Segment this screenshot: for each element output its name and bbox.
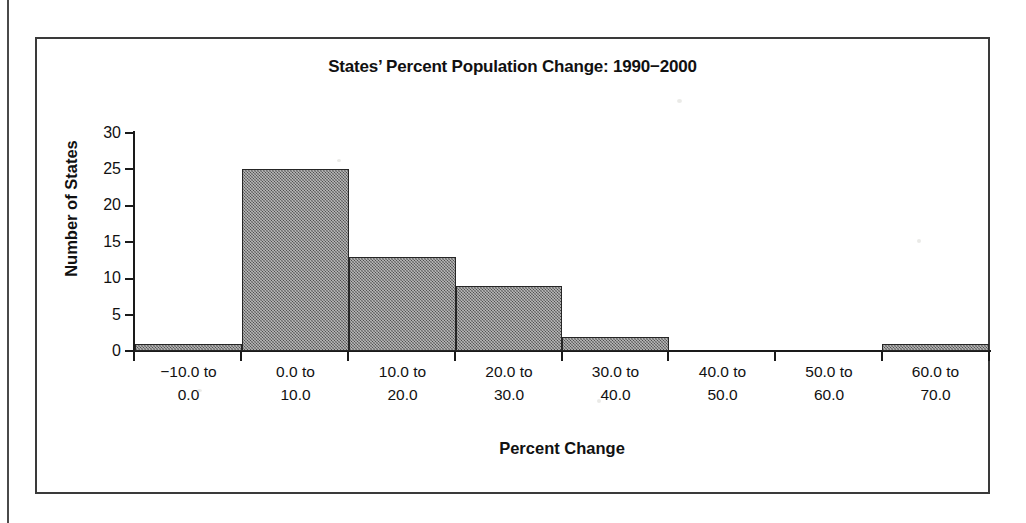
plot-area bbox=[135, 133, 989, 351]
x-axis-label-bin-1-line-2: 0.0 bbox=[135, 384, 242, 407]
chart-figure-frame: States’ Percent Population Change: 1990−… bbox=[35, 37, 990, 494]
x-axis-label-bin-6-line-1: 40.0 to bbox=[669, 361, 776, 384]
x-axis-label-bin-4: 20.0 to 30.0 bbox=[456, 361, 562, 407]
x-axis-label-bin-7: 50.0 to 60.0 bbox=[776, 361, 882, 407]
y-tick-label-20: 20 bbox=[87, 197, 121, 213]
scan-speckle bbox=[597, 399, 601, 403]
x-axis-label-bin-3-line-1: 10.0 to bbox=[349, 361, 456, 384]
bar-bin-1 bbox=[135, 344, 242, 351]
x-axis-label-bin-4-line-2: 30.0 bbox=[456, 384, 562, 407]
x-axis-label-bin-2: 0.0 to 10.0 bbox=[242, 361, 349, 407]
bar-bin-5 bbox=[562, 337, 669, 352]
y-tick-label-0: 0 bbox=[87, 343, 121, 359]
x-axis-tick-2 bbox=[347, 352, 349, 361]
x-axis-tick-5 bbox=[667, 352, 669, 361]
x-axis-label-bin-1-line-1: −10.0 to bbox=[135, 361, 242, 384]
scan-speckle bbox=[917, 239, 921, 243]
x-axis-label-bin-5-line-1: 30.0 to bbox=[562, 361, 669, 384]
x-axis-label-bin-6-line-2: 50.0 bbox=[669, 384, 776, 407]
scan-speckle bbox=[677, 99, 682, 103]
page-edge-rule bbox=[7, 0, 9, 523]
x-axis-label-bin-5: 30.0 to 40.0 bbox=[562, 361, 669, 407]
x-axis-label-bin-7-line-2: 60.0 bbox=[776, 384, 882, 407]
x-axis-label-bin-1: −10.0 to 0.0 bbox=[135, 361, 242, 407]
y-tick-label-30: 30 bbox=[87, 125, 121, 141]
x-axis-tick-6 bbox=[774, 352, 776, 361]
x-axis-label-bin-2-line-2: 10.0 bbox=[242, 384, 349, 407]
x-axis-label-bin-5-line-2: 40.0 bbox=[562, 384, 669, 407]
chart-title: States’ Percent Population Change: 1990−… bbox=[37, 57, 988, 77]
x-axis-tick-4 bbox=[561, 352, 563, 361]
x-axis-label-bin-7-line-1: 50.0 to bbox=[776, 361, 882, 384]
x-axis-label-bin-3: 10.0 to 20.0 bbox=[349, 361, 456, 407]
x-axis-label-bin-8-line-2: 70.0 bbox=[882, 384, 989, 407]
y-tick-label-10: 10 bbox=[87, 270, 121, 286]
y-axis-tick-labels: 30 25 20 15 10 5 0 bbox=[79, 39, 121, 492]
bar-bin-8 bbox=[882, 344, 989, 351]
x-axis-tick-3 bbox=[454, 352, 456, 361]
scan-speckle bbox=[337, 159, 341, 162]
bar-bin-3 bbox=[349, 257, 456, 352]
y-tick-label-15: 15 bbox=[87, 234, 121, 250]
y-axis-title: Number of States bbox=[62, 109, 81, 309]
x-axis-label-bin-2-line-1: 0.0 to bbox=[242, 361, 349, 384]
x-axis-tick-0 bbox=[133, 352, 135, 361]
x-axis-label-bin-8: 60.0 to 70.0 bbox=[882, 361, 989, 407]
x-axis-title: Percent Change bbox=[135, 439, 989, 458]
x-axis-label-bin-8-line-1: 60.0 to bbox=[882, 361, 989, 384]
bar-bin-2 bbox=[242, 169, 349, 351]
y-tick-label-25: 25 bbox=[87, 161, 121, 177]
x-axis-tick-1 bbox=[240, 352, 242, 361]
bar-bin-4 bbox=[456, 286, 562, 351]
x-axis-label-bin-6: 40.0 to 50.0 bbox=[669, 361, 776, 407]
x-axis-label-bin-4-line-1: 20.0 to bbox=[456, 361, 562, 384]
x-axis-label-bin-3-line-2: 20.0 bbox=[349, 384, 456, 407]
x-axis-tick-7 bbox=[881, 352, 883, 361]
x-axis-tick-8 bbox=[988, 352, 990, 361]
y-tick-label-5: 5 bbox=[87, 307, 121, 323]
scan-speckle bbox=[197, 389, 202, 392]
